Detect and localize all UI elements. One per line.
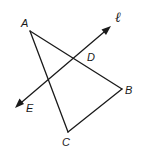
segment-cb [68, 89, 122, 132]
label-d: D [87, 51, 95, 63]
label-a: A [20, 17, 28, 29]
segment-ab [30, 31, 122, 89]
label-e: E [26, 102, 34, 114]
label-b: B [125, 84, 132, 96]
geometry-diagram: A B C D E ℓ [0, 0, 142, 157]
segment-ac [30, 31, 68, 132]
line-l [19, 30, 107, 105]
arrowhead-down-icon [15, 99, 24, 109]
label-line-l: ℓ [115, 9, 121, 25]
label-c: C [62, 136, 70, 148]
